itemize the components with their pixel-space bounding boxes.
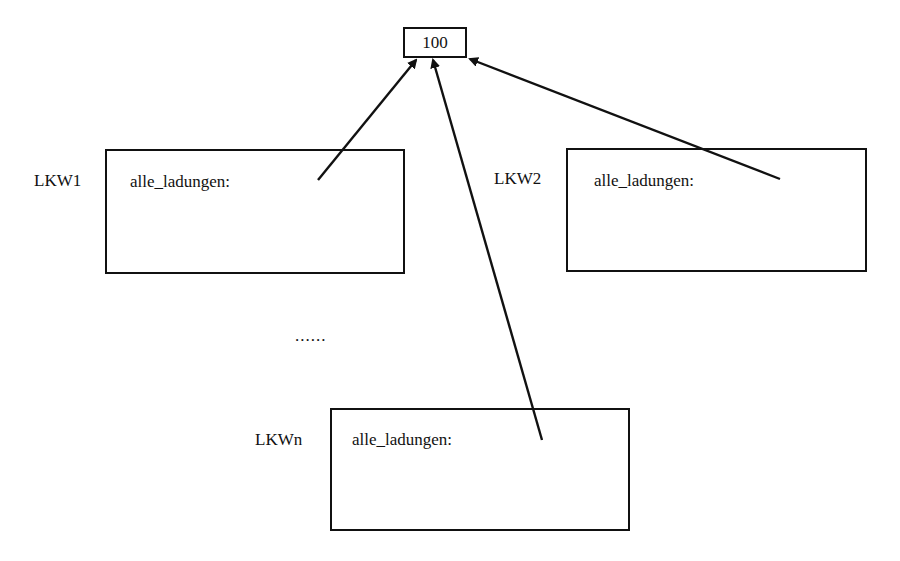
- attribute-label-lkw1: alle_ladungen:: [130, 173, 230, 190]
- object-label-lkw2: LKW2: [494, 170, 541, 187]
- object-box-lkwn: alle_ladungen:: [330, 408, 630, 531]
- shared-value-text: 100: [422, 33, 448, 53]
- attribute-label-lkwn: alle_ladungen:: [352, 431, 452, 448]
- ellipsis: ......: [295, 326, 327, 346]
- object-label-lkwn: LKWn: [255, 431, 302, 448]
- object-box-lkw2: alle_ladungen:: [566, 148, 867, 272]
- object-box-lkw1: alle_ladungen:: [105, 149, 405, 274]
- object-label-lkw1: LKW1: [34, 172, 81, 189]
- arrow-lkwn-to-value: [433, 60, 542, 440]
- attribute-label-lkw2: alle_ladungen:: [594, 172, 694, 189]
- shared-value-box: 100: [403, 27, 467, 58]
